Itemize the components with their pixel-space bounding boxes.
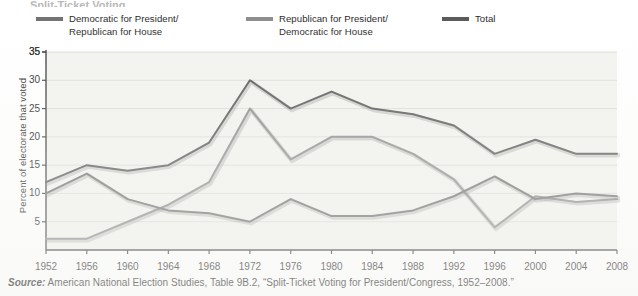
x-tick-label: 1968 [198, 262, 220, 272]
x-tick-label: 1964 [157, 262, 179, 272]
chart-figure: Split-Ticket Voting Democratic for Presi… [0, 0, 638, 296]
source-text: American National Election Studies, Tabl… [45, 277, 513, 288]
legend-swatch-rep-pres-dem-house [246, 17, 273, 21]
legend-label-rep-pres-dem-house: Republican for President/ Democratic for… [279, 13, 388, 38]
chart-legend: Democratic for President/ Republican for… [32, 13, 612, 43]
x-tick-label: 2000 [524, 262, 546, 272]
x-tick-label: 1980 [320, 262, 342, 272]
legend-item-total[interactable]: Total [442, 13, 496, 26]
chart-svg [0, 45, 638, 260]
legend-swatch-total [442, 17, 469, 21]
legend-swatch-dem-pres-rep-house [36, 17, 63, 21]
x-tick-label: 1972 [239, 262, 261, 272]
x-tick-label: 1992 [443, 262, 465, 272]
plot-area: Percent of electorate that voted 3530252… [0, 45, 638, 260]
x-tick-label: 1984 [361, 262, 383, 272]
legend-item-rep-pres-dem-house[interactable]: Republican for President/ Democratic for… [246, 13, 388, 38]
x-axis-ticks: 1952195619601964196819721976198019841988… [0, 250, 638, 272]
legend-label-dem-pres-rep-house: Democratic for President/ Republican for… [69, 13, 178, 38]
x-tick-label: 1952 [35, 262, 57, 272]
x-tick-label: 2008 [606, 262, 628, 272]
source-prefix: Source: [8, 277, 45, 288]
legend-label-total: Total [475, 13, 496, 26]
x-tick-label: 2004 [565, 262, 587, 272]
legend-item-dem-pres-rep-house[interactable]: Democratic for President/ Republican for… [36, 13, 178, 38]
x-tick-label: 1976 [280, 262, 302, 272]
x-tick-label: 1988 [402, 262, 424, 272]
source-caption: Source: American National Election Studi… [8, 276, 628, 289]
figure-title-sliver: Split-Ticket Voting [30, 0, 310, 7]
x-tick-label: 1960 [116, 262, 138, 272]
x-tick-label: 1996 [484, 262, 506, 272]
x-tick-label: 1956 [76, 262, 98, 272]
